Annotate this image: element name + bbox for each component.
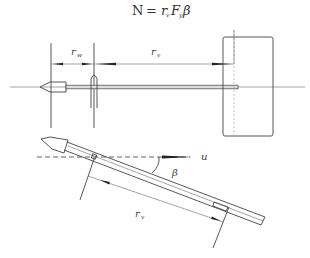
arrowhead-rv-bottom-left	[100, 179, 110, 185]
label-rv-subscript: v	[157, 51, 161, 58]
arrowhead-rw-right	[82, 63, 92, 65]
label-beta: β	[171, 167, 178, 178]
tilted-dart-tip	[41, 137, 68, 153]
formula-r-subscript: v	[166, 11, 170, 18]
formula-equals: =	[146, 3, 157, 18]
arrowhead-rv-left	[96, 63, 116, 65]
top-view: r w r v	[10, 30, 305, 136]
u-arrowhead	[162, 156, 192, 159]
formula: N = r v F y β	[132, 3, 191, 19]
pivot-marker	[91, 154, 96, 159]
formula-beta: β	[182, 3, 191, 18]
tilted-shaft-edge-top	[67, 142, 265, 217]
arrowhead-rw-left	[53, 63, 63, 65]
label-rw-subscript: w	[77, 51, 83, 58]
arrowhead-rv-right	[212, 63, 232, 65]
bottom-view: u β r v	[37, 137, 265, 248]
dart-geometry-diagram: N = r v F y β r w r v	[0, 0, 310, 258]
arrowhead-rv-bottom-right	[211, 217, 221, 223]
formula-lhs: N	[132, 3, 143, 18]
beta-arc	[152, 157, 159, 173]
extension-line-fin	[213, 207, 229, 248]
dart-shaft	[66, 85, 238, 89]
label-u: u	[201, 151, 207, 162]
extension-line-pivot	[80, 159, 94, 200]
label-rv-bottom-subscript: v	[141, 213, 145, 220]
